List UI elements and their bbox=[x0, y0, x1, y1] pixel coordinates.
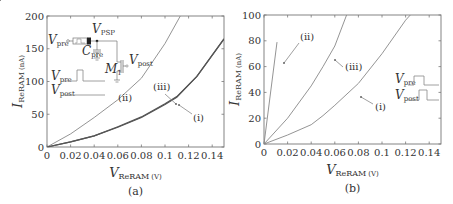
panel-label: (a) bbox=[128, 185, 143, 198]
svg-text:Vpre: Vpre bbox=[51, 69, 72, 84]
svg-text:M1: M1 bbox=[104, 62, 122, 77]
svg-text:Cpre: Cpre bbox=[82, 44, 103, 59]
y-tick-label: 150 bbox=[25, 43, 44, 54]
figure: 00.020.040.060.080.10.120.14050100150200… bbox=[0, 0, 453, 204]
svg-text:Vpre: Vpre bbox=[48, 33, 69, 48]
y-tick-label: 40 bbox=[248, 87, 261, 98]
curve-annotation: (i) bbox=[375, 101, 386, 112]
y-tick-label: 200 bbox=[25, 11, 44, 22]
svg-text:Vpost: Vpost bbox=[129, 53, 153, 68]
svg-text:Vpost: Vpost bbox=[51, 83, 75, 98]
y-axis-label: IReRAM(nA) bbox=[227, 53, 243, 107]
y-tick-label: 20 bbox=[248, 113, 261, 124]
x-tick-label: 0.04 bbox=[83, 150, 105, 161]
x-tick-label: 0.1 bbox=[157, 150, 173, 161]
series-line-ii bbox=[264, 42, 277, 144]
x-axis-label: VReRAM(V) bbox=[109, 165, 162, 181]
y-tick-label: 80 bbox=[248, 35, 261, 46]
x-tick-label: 0.08 bbox=[347, 147, 369, 158]
x-axis-label: VReRAM(V) bbox=[326, 162, 379, 178]
y-tick-label: 50 bbox=[31, 109, 44, 120]
waveform-inset: VpreVpost bbox=[395, 72, 439, 103]
y-tick-label: 60 bbox=[248, 61, 261, 72]
curve-annotation: (ii) bbox=[300, 31, 314, 42]
circuit-inset: VpreVPSPCpreM1VpostVpreVpost bbox=[48, 22, 153, 98]
y-axis-label: IReRAM(nA) bbox=[10, 55, 26, 109]
x-tick-label: 0.12 bbox=[177, 150, 199, 161]
y-tick-label: 0 bbox=[255, 139, 261, 150]
panel-a-chart: 00.020.040.060.080.10.120.14050100150200… bbox=[0, 0, 224, 198]
svg-text:VPSP: VPSP bbox=[92, 22, 115, 37]
panel-label: (b) bbox=[345, 182, 361, 195]
x-tick-label: 0.06 bbox=[107, 150, 129, 161]
svg-text:Vpost: Vpost bbox=[395, 88, 419, 103]
x-tick-label: 0 bbox=[44, 150, 50, 161]
x-tick-label: 0.1 bbox=[374, 147, 390, 158]
y-tick-label: 100 bbox=[25, 76, 44, 87]
series-line-i bbox=[264, 15, 410, 144]
x-tick-label: 0.14 bbox=[418, 147, 440, 158]
panel-b-chart: 00.020.040.060.080.10.120.14020406080100… bbox=[227, 10, 441, 196]
x-tick-label: 0.06 bbox=[324, 147, 346, 158]
curve-annotation: (iii) bbox=[153, 81, 170, 92]
plot-frame bbox=[47, 16, 224, 147]
y-tick-label: 100 bbox=[242, 10, 261, 21]
curve-annotation: (i) bbox=[193, 112, 204, 123]
x-tick-label: 0.12 bbox=[394, 147, 416, 158]
curve-annotation: (ii) bbox=[118, 92, 132, 103]
x-tick-label: 0.02 bbox=[59, 150, 81, 161]
curve-annotation: (iii) bbox=[345, 61, 362, 72]
x-tick-label: 0.04 bbox=[300, 147, 322, 158]
x-tick-label: 0.08 bbox=[130, 150, 152, 161]
y-tick-label: 0 bbox=[38, 142, 44, 153]
x-tick-label: 0.02 bbox=[276, 147, 298, 158]
x-tick-label: 0.14 bbox=[201, 150, 223, 161]
x-tick-label: 0 bbox=[261, 147, 267, 158]
